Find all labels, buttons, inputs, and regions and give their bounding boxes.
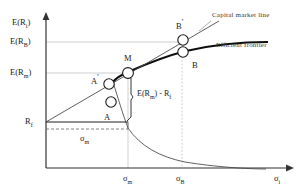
risk-premium-label: E(Rm) - Rf bbox=[137, 90, 171, 100]
x-axis-title-sigma_i: σi bbox=[274, 174, 280, 185]
point-marker-A-prime bbox=[104, 79, 114, 89]
point-label-A-prime: A' bbox=[91, 74, 99, 85]
point-label-A: A bbox=[104, 110, 110, 121]
point-label-B: B bbox=[192, 58, 198, 69]
y-tick-label-E_RB: E(RB) bbox=[10, 37, 31, 48]
point-label-M: M bbox=[124, 51, 132, 62]
x-tick-label-sigma_B: σB bbox=[176, 174, 185, 185]
point-marker-B bbox=[178, 47, 188, 57]
capital-market-line-annotation: Capital market line bbox=[212, 12, 269, 19]
point-label-B-prime: B' bbox=[176, 19, 183, 30]
y-tick-label-E_Ri: E(Ri) bbox=[12, 18, 30, 29]
y-tick-label-E_Rm: E(Rm) bbox=[10, 68, 31, 79]
y-tick-label-R_f: Rf bbox=[25, 117, 33, 128]
efficient-frontier-annotation: Efficient frontier bbox=[216, 42, 267, 49]
point-marker-B-prime bbox=[178, 35, 188, 45]
y-axis-arrow-icon bbox=[43, 12, 50, 20]
point-marker-M bbox=[123, 68, 134, 79]
x-axis-arrow-icon bbox=[286, 165, 294, 172]
minimum-variance-lower-branch bbox=[113, 82, 266, 169]
point-marker-A bbox=[106, 97, 116, 107]
x-tick-label-sigma_m: σm bbox=[123, 174, 132, 185]
sigma-m-bracket-label: σm bbox=[80, 134, 89, 145]
capital-market-line-chart: E(Ri) E(RB) E(Rm) Rf σm σB σi M A A' B B… bbox=[0, 0, 306, 195]
